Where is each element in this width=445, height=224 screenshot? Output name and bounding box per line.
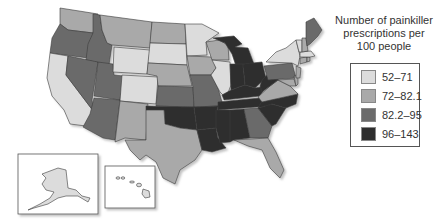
hawaii-inset xyxy=(105,166,155,208)
legend-item-3: 82.2–95 xyxy=(361,108,422,122)
hawaii-island-kauai xyxy=(116,177,120,179)
legend-label: 52–71 xyxy=(382,71,413,83)
legend-label: 72–82.1 xyxy=(382,90,422,102)
state-north-dakota xyxy=(150,22,186,44)
state-kansas xyxy=(156,86,194,107)
legend-swatch xyxy=(361,70,376,84)
legend-item-1: 52–71 xyxy=(361,70,413,84)
state-connecticut xyxy=(300,57,307,64)
state-new-jersey xyxy=(296,66,301,78)
legend-title-line-1: Number of painkiller xyxy=(328,14,440,27)
hawaii-island-maui xyxy=(137,183,142,187)
legend-title: Number of painkiller prescriptions per 1… xyxy=(328,14,440,53)
legend-swatch xyxy=(361,108,376,122)
state-south-dakota xyxy=(148,43,187,65)
legend-label: 96–143 xyxy=(382,128,419,140)
legend-item-4: 96–143 xyxy=(361,127,419,141)
state-pennsylvania xyxy=(264,63,296,80)
state-arkansas xyxy=(194,106,218,130)
legend-item-2: 72–82.1 xyxy=(361,89,422,103)
state-rhode-island xyxy=(307,57,310,62)
state-maine xyxy=(306,18,322,46)
state-new-york xyxy=(266,40,300,66)
state-colorado xyxy=(120,75,158,104)
legend-title-line-2: prescriptions per xyxy=(328,27,440,40)
state-florida xyxy=(234,138,284,178)
legend-label: 82.2–95 xyxy=(382,109,422,121)
hawaii-island-molokai xyxy=(130,181,135,183)
legend-swatch xyxy=(361,127,376,141)
state-montana xyxy=(100,15,152,48)
legend-swatch xyxy=(361,89,376,103)
state-wyoming xyxy=(113,47,150,74)
legend: 52–71 72–82.1 82.2–95 96–143 xyxy=(350,63,420,147)
legend-title-line-3: 100 people xyxy=(328,40,440,53)
hawaii-island-oahu xyxy=(121,177,125,179)
state-new-mexico xyxy=(115,101,148,142)
alaska-inset xyxy=(18,154,98,214)
